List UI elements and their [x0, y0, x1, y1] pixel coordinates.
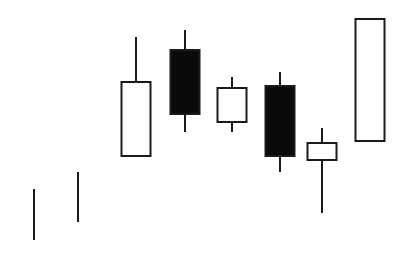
bullish-candle-body [356, 19, 385, 141]
candle-4 [171, 30, 200, 132]
bullish-candle-body [308, 143, 337, 160]
bearish-candle-body [171, 50, 200, 114]
bearish-candle-body [266, 86, 295, 156]
candle-3 [122, 37, 151, 156]
candle-8 [356, 19, 385, 141]
candlestick-chart [0, 0, 412, 256]
bullish-candle-body [122, 82, 151, 156]
candle-7 [308, 128, 337, 213]
bullish-candle-body [218, 88, 247, 122]
candle-6 [266, 72, 295, 172]
candle-5 [218, 77, 247, 132]
